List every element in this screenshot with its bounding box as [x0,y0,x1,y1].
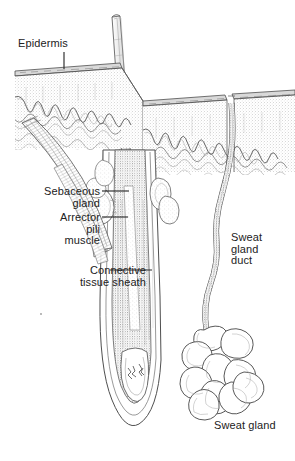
label-sweat-gland: Sweat gland [214,420,276,432]
epidermis-left-block [12,63,143,162]
label-connective-tissue-sheath: Connective tissue sheath [40,265,146,288]
label-sweat-gland-duct: Sweat gland duct [231,232,262,267]
ink-speck [40,313,42,315]
figure-canvas: Epidermis Sebaceous gland Arrector pili … [0,0,295,461]
label-epidermis: Epidermis [18,38,68,50]
label-sebaceous-gland: Sebaceous gland [4,186,100,209]
label-arrector-pili-muscle: Arrector pili muscle [4,212,100,247]
